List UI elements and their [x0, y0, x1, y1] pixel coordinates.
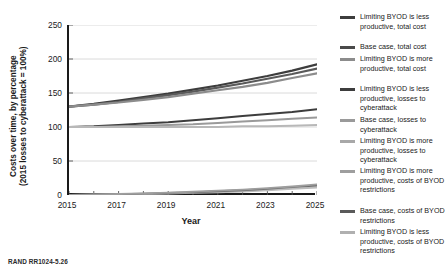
legend-item-label: Base case, total cost [360, 42, 446, 52]
y-tick-label: 100 [28, 122, 62, 132]
legend-swatch-icon [340, 140, 355, 143]
source-note: RAND RR1024-5.26 [8, 258, 68, 265]
legend-item[interactable]: Base case, losses to cyberattack [340, 115, 446, 134]
y-tick-label: 0 [28, 190, 62, 200]
legend-swatch-icon [340, 16, 355, 19]
legend-item-label: Limiting BYOD is less productive, total … [360, 12, 446, 31]
x-tick-label: 2015 [58, 200, 77, 210]
legend-item-label: Limiting BYOD is more productive, costs … [360, 166, 446, 195]
legend-item-label: Limiting BYOD is less productive, losses… [360, 84, 446, 113]
legend-swatch-icon [340, 119, 355, 122]
x-tick-label: 2017 [107, 200, 126, 210]
legend-item[interactable]: Limiting BYOD is less productive, costs … [340, 227, 446, 256]
y-axis-label-line1: Costs over time, by percentage [9, 55, 18, 177]
legend-swatch-icon [340, 46, 355, 49]
legend-swatch-icon [340, 88, 355, 91]
legend-item[interactable]: Limiting BYOD is more productive, losses… [340, 136, 446, 165]
x-tick-label: 2023 [256, 200, 275, 210]
legend-item[interactable]: Base case, total cost [340, 42, 446, 52]
legend-item[interactable]: Limiting BYOD is more productive, costs … [340, 166, 446, 195]
legend-item-label: Base case, costs of BYOD restrictions [360, 206, 446, 225]
legend-item-label: Limiting BYOD is more productive, losses… [360, 136, 446, 165]
legend-swatch-icon [340, 210, 355, 213]
y-tick-label: 250 [28, 20, 62, 30]
series-line [69, 64, 317, 106]
legend-item[interactable]: Limiting BYOD is less productive, losses… [340, 84, 446, 113]
x-tick-label: 2021 [206, 200, 225, 210]
legend-swatch-icon [340, 58, 355, 61]
chart-figure: Costs over time, by percentage (2015 los… [0, 0, 448, 276]
y-tick-label: 150 [28, 88, 62, 98]
legend-item[interactable]: Limiting BYOD is less productive, total … [340, 12, 446, 31]
legend-item[interactable]: Base case, costs of BYOD restrictions [340, 206, 446, 225]
y-tick-label: 200 [28, 54, 62, 64]
x-tick-label: 2025 [306, 200, 325, 210]
legend-swatch-icon [340, 231, 355, 234]
legend-item-label: Base case, losses to cyberattack [360, 115, 446, 134]
y-tick-label: 50 [28, 156, 62, 166]
legend-item-label: Limiting BYOD is less productive, costs … [360, 227, 446, 256]
legend-swatch-icon [340, 170, 355, 173]
series-lines [69, 25, 317, 195]
chart-legend: Limiting BYOD is less productive, total … [340, 12, 448, 267]
x-axis-label: Year [66, 216, 316, 226]
legend-item[interactable]: Limiting BYOD is more productive, total … [340, 54, 446, 73]
plot-area [67, 25, 315, 195]
y-axis-ticks: 050100150200250 [28, 0, 62, 276]
legend-item-label: Limiting BYOD is more productive, total … [360, 54, 446, 73]
x-tick-label: 2019 [157, 200, 176, 210]
